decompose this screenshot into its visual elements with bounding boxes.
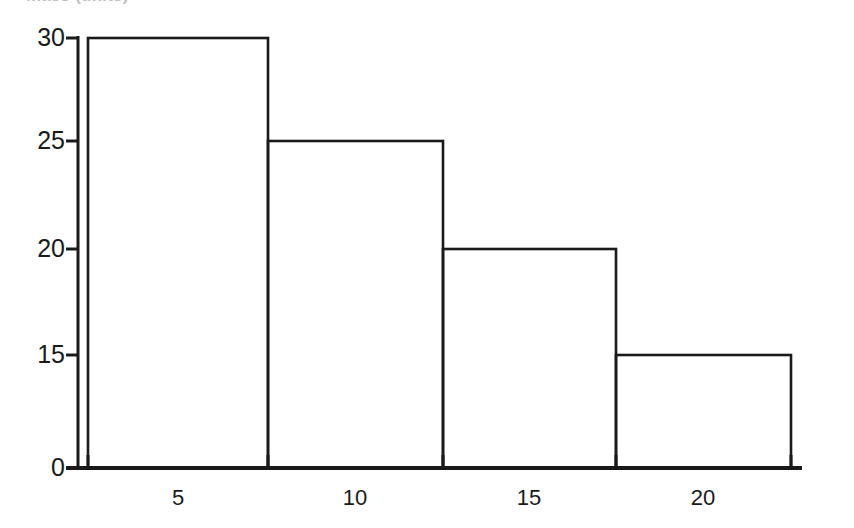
y-tick-label-0: 0 — [11, 455, 65, 480]
x-tick-label-20: 20 — [673, 487, 733, 509]
histogram-figure: mass (units) 30 25 20 15 0 5 10 15 20 — [0, 0, 854, 528]
y-tick-label-30: 30 — [11, 25, 65, 50]
plot-area — [0, 0, 854, 528]
y-tick-label-15: 15 — [11, 342, 65, 367]
x-tick-label-15: 15 — [499, 487, 559, 509]
x-tick-label-5: 5 — [148, 487, 208, 509]
histogram-bar-4 — [616, 355, 791, 468]
y-tick-label-25: 25 — [11, 128, 65, 153]
histogram-bar-1 — [88, 38, 268, 468]
x-tick-label-10: 10 — [325, 487, 385, 509]
histogram-bar-2 — [268, 141, 443, 468]
histogram-bar-3 — [443, 249, 616, 468]
y-tick-label-20: 20 — [11, 236, 65, 261]
